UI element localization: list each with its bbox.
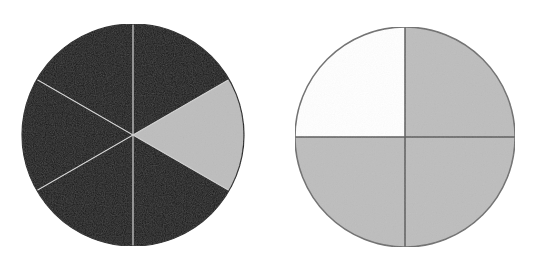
- right-fraction-circle[interactable]: [295, 27, 515, 247]
- right-circle-quadrant-4[interactable]: [405, 27, 515, 137]
- right-circle-quadrant-3[interactable]: [295, 27, 405, 137]
- fraction-circles-svg: [0, 0, 534, 264]
- right-circle-quadrant-2[interactable]: [295, 137, 405, 247]
- left-fraction-circle[interactable]: [22, 24, 244, 246]
- fraction-circles-figure: 5/6 3/4 Fraction circle models: [0, 0, 534, 264]
- right-circle-quadrant-1[interactable]: [405, 137, 515, 247]
